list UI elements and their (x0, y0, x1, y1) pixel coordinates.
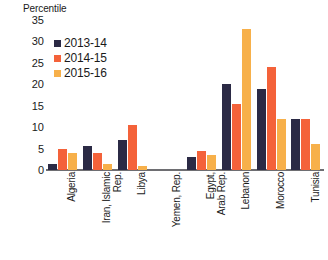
bar (267, 67, 276, 170)
bar-group (256, 20, 291, 170)
y-axis-tick-label: 30 (0, 36, 44, 47)
bar-group (186, 20, 221, 170)
bar (103, 164, 112, 170)
bar (222, 84, 231, 170)
bar-group (290, 20, 325, 170)
bar (291, 119, 300, 170)
bar-group (221, 20, 256, 170)
x-axis-tick-label: Yemen, Rep. (172, 172, 183, 260)
x-axis-tick-label: Egypt, Arab Rep. (206, 172, 227, 260)
legend-swatch-icon (54, 55, 61, 62)
bar (138, 166, 147, 170)
legend-swatch-icon (54, 70, 61, 77)
x-axis-tick-label: Lebanon (241, 172, 252, 260)
legend-item: 2014-15 (54, 51, 107, 65)
legend: 2013-142014-152015-16 (54, 36, 107, 81)
legend-item: 2015-16 (54, 66, 107, 80)
y-axis-tick-label: 25 (0, 57, 44, 68)
bar (301, 119, 310, 170)
bar (197, 151, 206, 170)
legend-item: 2013-14 (54, 36, 107, 50)
y-axis-tick-label: 20 (0, 79, 44, 90)
bar (232, 104, 241, 170)
bar (257, 89, 266, 170)
x-axis-tick-label: Libya (137, 172, 148, 260)
bar (311, 144, 320, 170)
legend-label: 2013-14 (64, 37, 107, 49)
bar (128, 125, 137, 170)
x-axis-tick-label: Tunisia (311, 172, 322, 260)
bar (207, 155, 216, 170)
y-axis-tick-label: 35 (0, 15, 44, 26)
y-axis-title: Percentile (23, 3, 66, 14)
bar (58, 149, 67, 170)
y-axis-tick-labels: 35302520151050 (0, 20, 44, 170)
bar (187, 157, 196, 170)
bar (118, 140, 127, 170)
bar (48, 164, 57, 170)
legend-label: 2014-15 (64, 52, 107, 64)
bar (93, 153, 102, 170)
bar (242, 29, 251, 170)
x-axis-tick-label: Algeria (67, 172, 78, 260)
bar-chart: Percentile 35302520151050 2013-142014-15… (0, 0, 328, 260)
bar-group (151, 20, 186, 170)
bar (277, 119, 286, 170)
x-axis-tick-label: Morocco (276, 172, 287, 260)
y-axis-tick-label: 15 (0, 100, 44, 111)
y-axis-tick-label: 10 (0, 122, 44, 133)
legend-label: 2015-16 (64, 67, 107, 79)
bar (68, 153, 77, 170)
y-axis-tick-label: 0 (0, 165, 44, 176)
x-axis-tick-label: Iran, Islamic Rep. (102, 172, 123, 260)
legend-swatch-icon (54, 40, 61, 47)
bar (83, 146, 92, 170)
y-axis-tick-label: 5 (0, 143, 44, 154)
x-axis-tick-labels: AlgeriaIran, Islamic Rep.LibyaYemen, Rep… (46, 172, 324, 260)
bar-group (117, 20, 152, 170)
